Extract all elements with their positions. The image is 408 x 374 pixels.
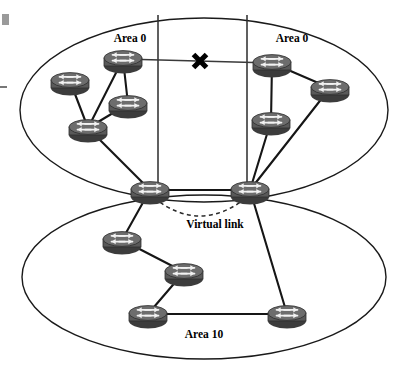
router-area10-north[interactable] xyxy=(103,232,141,255)
link-r7-r9 xyxy=(250,88,330,190)
router-right-east[interactable] xyxy=(311,80,349,103)
router-left-south[interactable] xyxy=(69,120,107,143)
router-top-face xyxy=(253,55,291,70)
area-boundaries-layer xyxy=(20,18,388,359)
router-area10-center[interactable] xyxy=(165,264,203,287)
router-left-top[interactable] xyxy=(104,51,142,74)
router-top-face xyxy=(131,182,169,197)
router-right-top[interactable] xyxy=(253,55,291,78)
router-area10-east[interactable] xyxy=(268,306,306,329)
router-left-mid[interactable] xyxy=(109,96,147,119)
router-top-face xyxy=(165,264,203,279)
router-top-face xyxy=(104,51,142,66)
area-label-right: Area 0 xyxy=(276,32,309,44)
topology-canvas: Area 0Area 0Area 10Virtual link xyxy=(0,0,408,374)
router-top-face xyxy=(129,306,167,321)
router-area10-west[interactable] xyxy=(129,306,167,329)
router-top-face xyxy=(69,120,107,135)
router-abr-left[interactable] xyxy=(131,182,169,205)
network-diagram: Area 0Area 0Area 10Virtual link xyxy=(0,0,408,374)
router-left-west[interactable] xyxy=(51,73,89,96)
router-top-face xyxy=(109,96,147,111)
area-label-left: Area 0 xyxy=(114,32,147,44)
partition-lines-layer xyxy=(158,15,247,192)
router-top-face xyxy=(311,80,349,95)
router-top-face xyxy=(231,182,269,197)
router-right-mid[interactable] xyxy=(252,113,290,136)
router-top-face xyxy=(51,73,89,88)
router-top-face xyxy=(268,306,306,321)
router-abr-right[interactable] xyxy=(231,182,269,205)
link-r9-r13 xyxy=(250,190,287,314)
router-top-face xyxy=(252,113,290,128)
router-top-face xyxy=(103,232,141,247)
virtual-link-label: Virtual link xyxy=(186,218,244,230)
area-boundary-area-0-backbone xyxy=(20,18,388,202)
area-label-bottom: Area 10 xyxy=(185,328,224,340)
